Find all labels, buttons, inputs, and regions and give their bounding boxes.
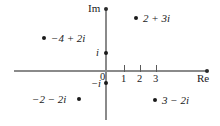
point-marker-i (104, 51, 108, 55)
point-label-neg2-minus-2i: −2 − 2i (32, 94, 66, 105)
real-axis-label: Re (197, 73, 209, 84)
point-marker-neg-i (104, 81, 108, 85)
real-axis-line (14, 70, 207, 72)
imaginary-axis-line (105, 8, 107, 120)
point-label-3-minus-2i: 3 − 2i (162, 95, 189, 106)
tick-mark-1 (124, 65, 125, 72)
imaginary-axis-label: Im (88, 3, 100, 14)
tick-label-2: 2 (137, 74, 142, 85)
point-marker-neg4-plus-2i (42, 36, 46, 40)
point-label-2-plus-3i: 2 + 3i (143, 13, 170, 24)
point-marker-neg2-minus-2i (77, 97, 81, 101)
tick-mark-3 (156, 65, 157, 72)
tick-label-i: i (96, 48, 99, 59)
tick-label-negative-i: −i (91, 79, 101, 90)
tick-label-3: 3 (153, 74, 158, 85)
point-marker-2-plus-3i (134, 16, 138, 20)
tick-label-1: 1 (121, 74, 126, 85)
point-marker-3-minus-2i (153, 98, 157, 102)
point-label-neg4-plus-2i: −4 + 2i (51, 33, 85, 44)
tick-mark-2 (140, 65, 141, 72)
imaginary-axis-arrow-icon (104, 7, 108, 11)
complex-plane-figure: Im Re 0 1 2 3 i −i 2 + 3i −4 + 2i −2 − 2… (0, 0, 220, 126)
